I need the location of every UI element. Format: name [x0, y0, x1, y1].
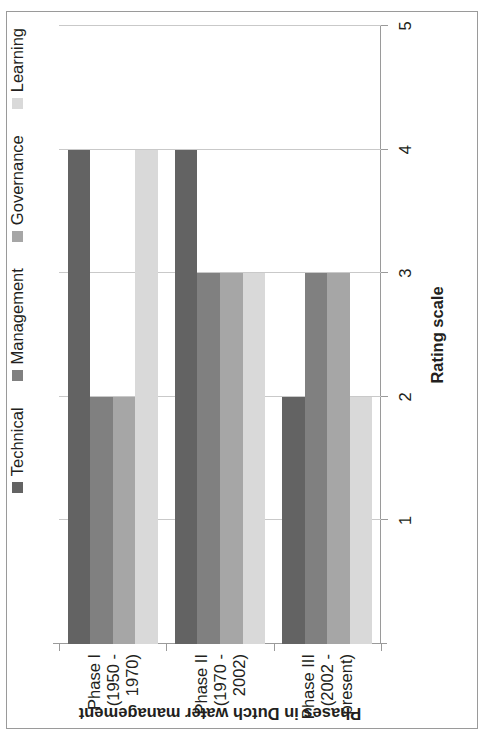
legend-swatch-icon [12, 482, 23, 493]
value-axis-title: Rating scale [428, 26, 447, 644]
value-axis-tick-label: 4 [396, 145, 415, 154]
bar[interactable] [175, 150, 198, 644]
category-axis-tick [381, 644, 382, 651]
value-axis-tick [381, 25, 388, 26]
category-axis-tick [166, 644, 167, 651]
bar[interactable] [243, 273, 266, 644]
category-axis-label: Phase III (2002 - present) [299, 654, 356, 728]
value-axis-line [380, 26, 381, 644]
legend-label: Management [9, 268, 26, 364]
bar[interactable] [350, 397, 373, 644]
bar[interactable] [135, 150, 158, 644]
value-axis-tick-label: 1 [396, 516, 415, 525]
legend-item-management[interactable]: Management [9, 268, 26, 381]
value-axis-tick [381, 149, 388, 150]
bar[interactable] [68, 150, 91, 644]
chart-legend: TechnicalManagementGovernanceLearning [9, 28, 26, 493]
category-axis-label: Phase I (1950 - 1970) [84, 654, 141, 728]
bar-chart: TechnicalManagementGovernanceLearning Ph… [7, 12, 477, 728]
category-axis-label: Phase II (1970 - 2002) [192, 654, 249, 728]
category-axis-labels: Phase I (1950 - 1970)Phase II (1970 - 20… [59, 644, 381, 728]
bar[interactable] [220, 273, 243, 644]
chart-frame: TechnicalManagementGovernanceLearning Ph… [6, 11, 478, 729]
plot-area: 12345 Rating scale [59, 26, 381, 644]
bar[interactable] [197, 273, 220, 644]
value-axis-tick [381, 396, 388, 397]
legend-swatch-icon [12, 98, 23, 109]
bar[interactable] [327, 273, 350, 644]
bar[interactable] [113, 397, 136, 644]
legend-swatch-icon [12, 370, 23, 381]
bar[interactable] [305, 273, 328, 644]
value-axis-tick-label: 5 [396, 21, 415, 30]
category-axis-tick [274, 644, 275, 651]
legend-item-technical[interactable]: Technical [9, 407, 26, 493]
value-axis-tick-label: 2 [396, 392, 415, 401]
legend-label: Technical [9, 407, 26, 476]
value-axis-tick [381, 272, 388, 273]
category-axis-tick [59, 644, 60, 651]
value-axis-tick [381, 519, 388, 520]
legend-item-learning[interactable]: Learning [9, 28, 26, 109]
gridline [59, 25, 381, 26]
plot-inner: 12345 [59, 26, 381, 644]
legend-item-governance[interactable]: Governance [9, 135, 26, 242]
rotated-chart-canvas: TechnicalManagementGovernanceLearning Ph… [7, 12, 477, 728]
value-axis-tick-label: 3 [396, 269, 415, 278]
legend-swatch-icon [12, 231, 23, 242]
gridline [59, 149, 381, 150]
bar[interactable] [282, 397, 305, 644]
legend-label: Governance [9, 135, 26, 225]
bar[interactable] [90, 397, 113, 644]
legend-label: Learning [9, 28, 26, 92]
